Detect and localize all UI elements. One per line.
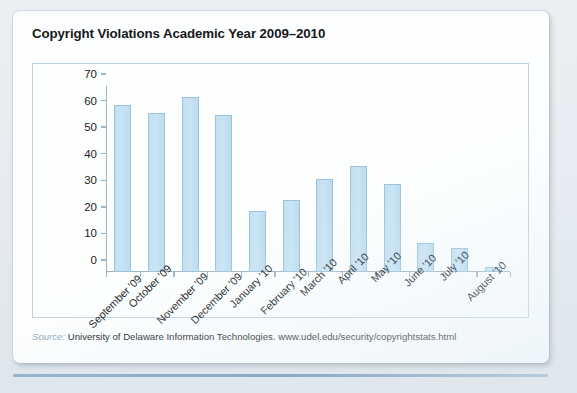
x-axis-tick-mark (173, 272, 174, 277)
page-divider-rule (13, 374, 548, 377)
source-note-text: University of Delaware Information Techn… (68, 331, 457, 342)
x-axis-tick-mark (274, 272, 275, 277)
bar-series (106, 86, 510, 272)
page-title: Copyright Violations Academic Year 2009–… (32, 26, 325, 41)
bar (114, 105, 131, 272)
x-axis-tick-mark (510, 272, 511, 277)
y-axis-tick-label: 0 (91, 254, 101, 266)
y-axis-tick: 70 (84, 68, 106, 80)
chart-plot-frame: 010203040506070 (32, 63, 529, 318)
bar (283, 200, 300, 272)
source-note: Source: University of Delaware Informati… (32, 331, 456, 342)
y-axis-tick-label: 10 (84, 227, 101, 239)
y-axis-tick: 30 (84, 174, 106, 186)
bar (182, 97, 199, 272)
y-axis-tick-label: 50 (84, 121, 101, 133)
y-axis-tick: 10 (84, 227, 106, 239)
scanned-page: Copyright Violations Academic Year 2009–… (0, 0, 577, 393)
bar (215, 115, 232, 272)
y-axis-tick-label: 30 (84, 174, 101, 186)
y-axis-tick: 60 (84, 95, 106, 107)
x-axis-tick-mark (476, 272, 477, 277)
y-axis-tick-mark (101, 73, 106, 74)
y-axis-tick-label: 70 (84, 68, 101, 80)
y-axis-tick: 0 (91, 254, 106, 266)
y-axis-tick-label: 20 (84, 201, 101, 213)
y-axis-tick-label: 40 (84, 148, 101, 160)
y-axis-tick: 40 (84, 148, 106, 160)
y-axis-tick: 50 (84, 121, 106, 133)
source-note-label: Source: (32, 331, 65, 342)
y-axis-tick-label: 60 (84, 95, 101, 107)
chart-plot-area: 010203040506070 (106, 86, 510, 272)
x-axis-tick-mark (106, 272, 107, 277)
y-axis-tick: 20 (84, 201, 106, 213)
bar (249, 211, 266, 272)
bar (148, 113, 165, 272)
figure-card: Copyright Violations Academic Year 2009–… (13, 11, 549, 363)
